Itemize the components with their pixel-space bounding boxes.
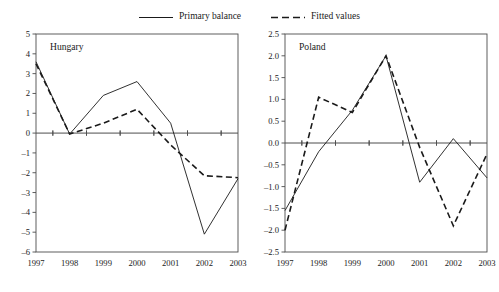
poland-plot-svg: 2.52.01.51.00.50.0–0.5–1.0–1.5–2.0–2.519… — [249, 26, 499, 292]
legend-label-fitted-values: Fitted values — [311, 12, 360, 22]
x-axis-tick-label: 2003 — [229, 258, 246, 268]
hungary-plot-svg: 543210–1–2–3–4–5–61997199819992000200120… — [0, 26, 250, 292]
y-axis-tick-label: –1.0 — [263, 182, 279, 192]
y-axis-tick-label: 1.5 — [268, 73, 279, 83]
y-axis-tick-label: 0.5 — [268, 116, 279, 126]
x-axis-tick-label: 2003 — [478, 258, 495, 268]
series-line-primary-balance — [285, 56, 487, 211]
y-axis-tick-label: –3 — [20, 188, 30, 198]
legend-label-primary-balance: Primary balance — [179, 12, 241, 22]
y-axis-tick-label: –6 — [20, 247, 30, 257]
x-axis-tick-label: 1998 — [61, 258, 78, 268]
panel-title: Hungary — [50, 41, 84, 52]
legend-item-fitted-values: Fitted values — [271, 12, 360, 22]
chart-panel-poland: 2.52.01.51.00.50.0–0.5–1.0–1.5–2.0–2.519… — [249, 26, 499, 292]
x-axis-tick-label: 1999 — [95, 258, 112, 268]
x-axis-tick-label: 1997 — [276, 258, 294, 268]
y-axis-tick-label: –0.5 — [263, 160, 279, 170]
x-axis-tick-label: 2001 — [411, 258, 428, 268]
y-axis-tick-label: –4 — [20, 207, 30, 217]
y-axis-tick-label: 0 — [26, 128, 30, 138]
y-axis-tick-label: 1.0 — [268, 94, 279, 104]
series-line-primary-balance — [36, 62, 238, 234]
x-axis-tick-label: 1999 — [344, 258, 361, 268]
y-axis-tick-label: –2 — [20, 168, 30, 178]
solid-line-swatch — [139, 13, 173, 22]
x-axis-tick-label: 2001 — [162, 258, 179, 268]
chart-legend: Primary balance Fitted values — [0, 8, 499, 26]
y-axis-tick-label: 5 — [26, 29, 30, 39]
dashed-line-swatch — [271, 13, 305, 22]
legend-item-primary-balance: Primary balance — [139, 12, 241, 22]
y-axis-tick-label: –1.5 — [263, 203, 279, 213]
y-axis-tick-label: –2.0 — [263, 225, 279, 235]
x-axis-tick-label: 2000 — [377, 258, 394, 268]
x-axis-tick-label: 2000 — [128, 258, 145, 268]
panel-title: Poland — [299, 41, 326, 52]
plot-frame — [36, 34, 238, 252]
x-axis-tick-label: 1997 — [27, 258, 45, 268]
y-axis-tick-label: 4 — [26, 49, 31, 59]
y-axis-tick-label: 2.5 — [268, 29, 279, 39]
y-axis-tick-label: 0.0 — [268, 138, 279, 148]
x-axis-tick-label: 2002 — [445, 258, 462, 268]
x-axis-tick-label: 2002 — [196, 258, 213, 268]
y-axis-tick-label: 2 — [26, 88, 30, 98]
y-axis-tick-label: 2.0 — [268, 51, 279, 61]
y-axis-tick-label: –5 — [20, 227, 30, 237]
y-axis-tick-label: 3 — [26, 69, 30, 79]
y-axis-tick-label: 1 — [26, 108, 30, 118]
y-axis-tick-label: –1 — [20, 148, 30, 158]
figure-two-panel-line-charts: Primary balance Fitted values 543210–1–2… — [0, 0, 499, 292]
y-axis-tick-label: –2.5 — [263, 247, 279, 257]
x-axis-tick-label: 1998 — [310, 258, 327, 268]
series-line-fitted-values — [36, 64, 238, 178]
chart-panel-hungary: 543210–1–2–3–4–5–61997199819992000200120… — [0, 26, 250, 292]
